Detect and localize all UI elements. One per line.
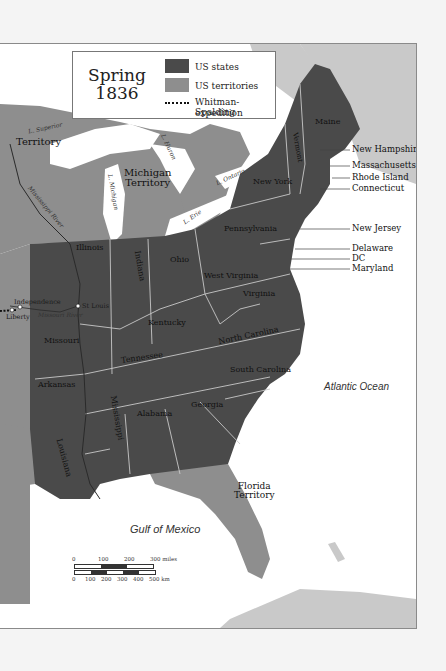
label-missouri-river: Missouri River [38,312,83,318]
label-new-york: New York [253,178,292,186]
legend-expedition-2: expedition [195,108,243,118]
states-swatch [165,59,189,73]
label-massachusetts: Massachusetts [352,161,416,170]
label-georgia: Georgia [191,401,223,409]
st-louis-marker [76,304,80,308]
map-legend: Spring 1836 US states US territories Whi… [72,51,276,119]
miles-bar [74,564,154,569]
label-connecticut: Connecticut [352,184,404,193]
label-new-jersey: New Jersey [352,224,401,233]
label-pennsylvania: Pennsylvania [224,225,277,233]
label-delaware: Delaware [352,244,393,253]
label-dc: DC [352,254,365,263]
label-south-carolina: South Carolina [230,366,291,374]
expedition-swatch [165,102,189,104]
km-bar [74,570,156,575]
label-st-louis: St Louis [82,303,109,310]
label-arkansas: Arkansas [38,381,75,389]
label-missouri: Missouri [44,337,79,345]
label-atlantic-ocean: Atlantic Ocean [324,382,389,392]
liberty-marker [10,308,14,312]
label-virginia: Virginia [243,290,275,298]
map-frame: Spring 1836 US states US territories Whi… [0,43,417,629]
label-florida-territory: Florida Territory [234,482,275,500]
label-independence: Independence [14,299,61,306]
label-michigan-territory: Michigan Territory [124,168,171,188]
label-liberty: Liberty [6,314,30,321]
label-alabama: Alabama [137,410,172,418]
territories-swatch [165,78,189,92]
legend-territories: US territories [195,81,258,91]
label-west-virginia: West Virginia [204,272,258,280]
label-territory: Territory [16,137,61,147]
label-maine: Maine [315,118,340,126]
cuba-land [220,589,416,628]
label-gulf-of-mexico: Gulf of Mexico [130,524,200,535]
legend-title: Spring 1836 [83,66,151,102]
label-ohio: Ohio [170,256,189,264]
label-kentucky: Kentucky [148,319,186,327]
label-rhode-island: Rhode Island [352,173,409,182]
label-illinois: Illinois [76,244,103,252]
label-new-hampshire: New Hampshire [352,145,417,154]
legend-states: US states [195,62,239,72]
label-maryland: Maryland [352,264,393,273]
